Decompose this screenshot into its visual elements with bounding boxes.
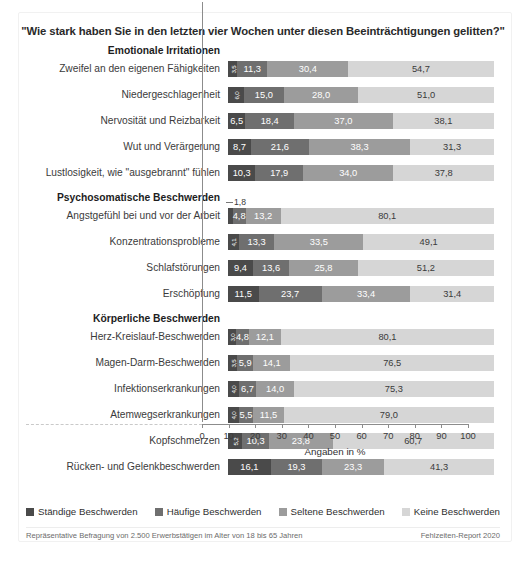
legend-item[interactable]: Seltene Beschwerden xyxy=(279,506,385,517)
bar-segment[interactable]: 4,0 xyxy=(228,407,239,423)
bar-segment[interactable]: 13,6 xyxy=(253,260,289,276)
bar-segment[interactable]: 33,4 xyxy=(322,286,411,302)
bar-value-label: 51,0 xyxy=(417,90,435,100)
bar-segment[interactable]: 23,7 xyxy=(259,286,322,302)
bar-segment[interactable]: 4,0 xyxy=(228,381,239,397)
stacked-bar[interactable]: 4,06,714,075,3 xyxy=(228,381,494,397)
bar-segment[interactable]: 17,9 xyxy=(255,165,303,181)
bar-segment[interactable]: 31,3 xyxy=(410,139,493,155)
bar-segment[interactable]: 11,3 xyxy=(237,61,267,77)
bar-segment[interactable]: 4,8 xyxy=(233,208,246,224)
bar-segment[interactable]: 80,1 xyxy=(281,329,494,345)
bar-segment[interactable]: 51,2 xyxy=(358,260,494,276)
legend-swatch xyxy=(402,508,410,516)
bar-segment[interactable]: 41,3 xyxy=(384,459,494,475)
bar-segment[interactable]: 51,0 xyxy=(358,87,494,103)
x-axis-tick-label: 30 xyxy=(277,430,287,441)
bar-segment[interactable]: 6,5 xyxy=(228,113,245,129)
bar-segment[interactable]: 4,1 xyxy=(228,234,239,250)
x-axis-tick xyxy=(308,424,309,428)
bar-segment[interactable]: 37,0 xyxy=(294,113,392,129)
stacked-bar[interactable]: 11,523,733,431,4 xyxy=(228,286,494,302)
bar-segment[interactable]: 31,4 xyxy=(410,286,494,302)
bar-segment[interactable]: 11,5 xyxy=(253,407,284,423)
bar-value-label: 79,0 xyxy=(380,410,398,420)
bar-segment[interactable]: 12,1 xyxy=(249,329,281,345)
stacked-bar[interactable]: 8,721,638,331,3 xyxy=(228,139,494,155)
bar-segment[interactable]: 80,1 xyxy=(281,208,494,224)
category-label-column: Emotionale IrritationenZweifel an den ei… xyxy=(26,44,226,468)
legend-swatch xyxy=(155,508,163,516)
bar-segment[interactable]: 3,5 xyxy=(228,61,237,77)
bar-value-label: 4,1 xyxy=(230,238,237,246)
x-axis-tick-label: 50 xyxy=(330,430,340,441)
bar-segment[interactable]: 30,4 xyxy=(267,61,348,77)
stacked-bar[interactable]: 3,55,914,176,5 xyxy=(228,355,494,371)
bar-segment[interactable]: 34,0 xyxy=(303,165,393,181)
bar-segment[interactable]: 49,1 xyxy=(363,234,494,250)
bar-segment[interactable]: 6,7 xyxy=(239,381,257,397)
bar-segment[interactable]: 15,0 xyxy=(244,87,284,103)
bar-segment[interactable]: 4,8 xyxy=(236,329,249,345)
legend-swatch xyxy=(26,508,34,516)
stacked-bar[interactable]: 3,511,330,454,7 xyxy=(228,61,494,77)
stacked-bar[interactable]: 9,413,625,851,2 xyxy=(228,260,494,276)
x-axis-tick xyxy=(415,424,416,428)
bar-segment[interactable]: 16,1 xyxy=(228,459,271,475)
bar-value-label: 4,8 xyxy=(236,332,249,342)
bar-value-label: 4,0 xyxy=(230,411,237,419)
legend-item[interactable]: Ständige Beschwerden xyxy=(26,506,138,517)
stacked-bar[interactable]: 4,05,511,579,0 xyxy=(228,407,494,423)
x-axis-tick xyxy=(362,424,363,428)
bar-segment[interactable]: 11,5 xyxy=(228,286,259,302)
stacked-bar[interactable]: 4,113,333,549,1 xyxy=(228,234,494,250)
stacked-bar[interactable]: 6,015,028,051,0 xyxy=(228,87,494,103)
bar-segment[interactable]: 6,0 xyxy=(228,87,244,103)
stacked-bar[interactable]: 3,04,812,180,1 xyxy=(228,329,494,345)
x-axis-tick-label: 20 xyxy=(250,430,260,441)
bar-segment[interactable]: 33,5 xyxy=(274,234,363,250)
stacked-bar[interactable]: 10,317,934,037,8 xyxy=(228,165,494,181)
bar-segment[interactable]: 14,1 xyxy=(253,355,291,371)
bar-segment[interactable]: 38,3 xyxy=(309,139,411,155)
bar-value-label: 14,1 xyxy=(263,358,281,368)
legend-item[interactable]: Häufige Beschwerden xyxy=(155,506,262,517)
bar-segment[interactable]: 28,0 xyxy=(284,87,358,103)
bar-segment[interactable]: 3,5 xyxy=(228,355,237,371)
bar-segment[interactable]: 13,2 xyxy=(246,208,281,224)
bar-segment[interactable]: 3,0 xyxy=(228,329,236,345)
bar-segment[interactable]: 79,0 xyxy=(284,407,494,423)
category-label: Angstgefühl bei und vor der Arbeit xyxy=(67,210,220,222)
bar-segment[interactable]: 75,3 xyxy=(294,381,494,397)
chart-title: "Wie stark haben Sie in den letzten vier… xyxy=(0,25,526,37)
x-axis-tick-label: 0 xyxy=(199,430,204,441)
bar-segment[interactable]: 25,8 xyxy=(289,260,358,276)
bar-value-label: 10,3 xyxy=(233,168,251,178)
stacked-bar[interactable]: 16,119,323,341,3 xyxy=(228,459,494,475)
bar-segment[interactable]: 9,4 xyxy=(228,260,253,276)
bar-segment[interactable]: 10,3 xyxy=(228,165,255,181)
bar-segment[interactable]: 23,3 xyxy=(322,459,384,475)
bar-segment[interactable]: 38,1 xyxy=(393,113,494,129)
bar-segment[interactable]: 18,4 xyxy=(245,113,294,129)
group-header: Emotionale Irritationen xyxy=(108,45,220,57)
bar-value-label: 30,4 xyxy=(299,64,317,74)
bar-segment[interactable]: 5,9 xyxy=(237,355,253,371)
stacked-bar[interactable]: 6,518,437,038,1 xyxy=(228,113,494,129)
bar-value-label: 54,7 xyxy=(412,64,430,74)
bar-segment[interactable]: 76,5 xyxy=(290,355,493,371)
bar-segment[interactable]: 37,8 xyxy=(393,165,494,181)
bar-segment[interactable]: 8,7 xyxy=(228,139,251,155)
legend-item[interactable]: Keine Beschwerden xyxy=(402,506,500,517)
bar-value-label: 75,3 xyxy=(385,384,403,394)
bar-value-label: 5,5 xyxy=(239,410,252,420)
bar-segment[interactable]: 19,3 xyxy=(271,459,322,475)
bar-value-label: 31,4 xyxy=(443,289,461,299)
stacked-bar[interactable]: 1,84,813,280,1 xyxy=(228,208,494,224)
bar-segment[interactable]: 13,3 xyxy=(239,234,274,250)
bar-segment[interactable]: 14,0 xyxy=(256,381,293,397)
bar-segment[interactable]: 21,6 xyxy=(251,139,308,155)
bar-segment[interactable]: 54,7 xyxy=(348,61,494,77)
bar-segment[interactable]: 5,5 xyxy=(239,407,254,423)
group-header: Psychosomatische Beschwerden xyxy=(57,192,220,204)
